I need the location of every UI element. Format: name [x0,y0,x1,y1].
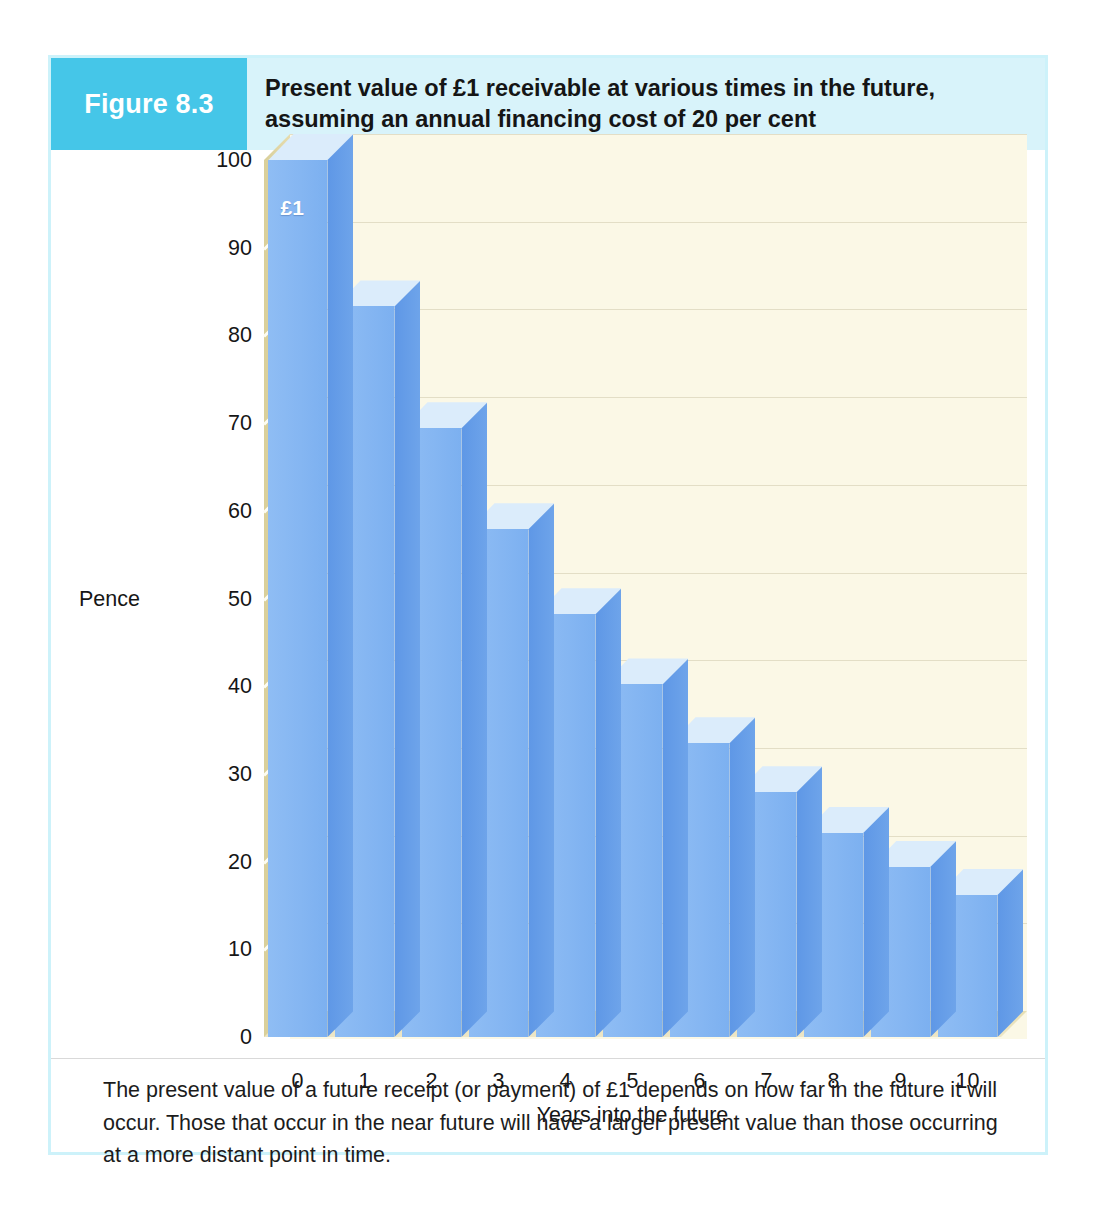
y-axis-title: Pence [79,586,140,611]
caption-divider [51,1058,1045,1059]
y-tick-label-70: 70 [196,411,252,436]
bar-chart: £1 0102030405060708090100 012345678910 P… [51,150,1045,1058]
bar-year-0[interactable] [268,134,354,1037]
bar-side-face [394,280,420,1037]
gridline [290,222,1027,223]
bar-side-face [327,134,353,1037]
bar-side-face [528,503,554,1037]
y-tick-label-50: 50 [196,586,252,611]
bar-side-face [863,807,889,1037]
y-tick-label-90: 90 [196,235,252,260]
bar-front-face [268,160,328,1037]
y-tick-label-20: 20 [196,849,252,874]
y-tick-label-80: 80 [196,323,252,348]
bar-side-face [930,841,956,1037]
bar-side-face [729,717,755,1037]
y-tick-label-100: 100 [196,148,252,173]
y-tick-label-60: 60 [196,498,252,523]
figure-caption: The present value of a future receipt (o… [103,1074,1003,1172]
y-tick-label-30: 30 [196,761,252,786]
gridline [290,134,1027,135]
figure-number-tag: Figure 8.3 [51,58,247,150]
bar-side-face [662,658,688,1037]
y-tick-label-40: 40 [196,674,252,699]
chart-area: £1 0102030405060708090100 012345678910 P… [51,150,1045,1058]
bar-side-face [796,766,822,1037]
bar-side-face [461,402,487,1037]
figure-container: Figure 8.3 Present value of £1 receivabl… [48,55,1048,1155]
bar-side-face [997,869,1023,1037]
y-tick-label-10: 10 [196,937,252,962]
bar-value-label: £1 [281,196,304,220]
bar-side-face [595,588,621,1037]
y-tick-label-0: 0 [196,1025,252,1050]
